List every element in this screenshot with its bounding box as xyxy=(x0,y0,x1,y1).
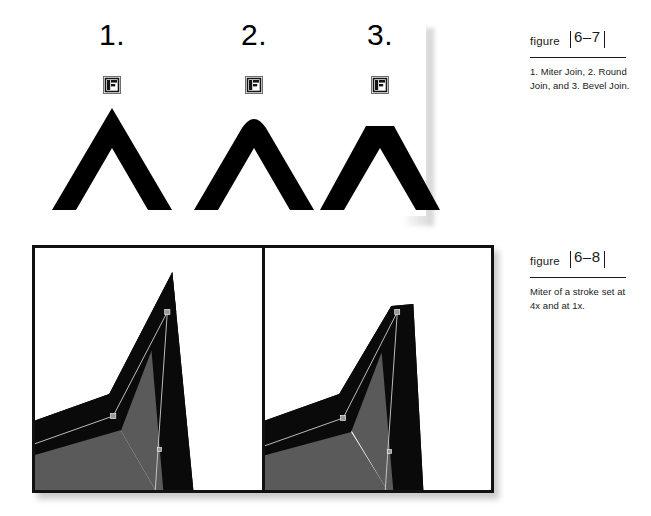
join-number-1: 1. xyxy=(48,18,176,52)
caption-6-8-rule xyxy=(530,277,626,278)
join-shape-bevel xyxy=(316,106,444,210)
stroke-join-swatch-icon xyxy=(103,76,121,94)
caption-6-8-body: Miter of a stroke set at 4x and at 1x. xyxy=(530,285,634,312)
caption-6-7-heading: figure 6–7 xyxy=(530,28,634,49)
miter-panel-4x xyxy=(35,248,265,490)
caption-figure-6-8: figure 6–8 Miter of a stroke set at 4x a… xyxy=(530,248,634,312)
caption-bar-right-icon xyxy=(604,31,605,48)
miter-panel-1x xyxy=(265,248,492,490)
caption-bar-left-icon xyxy=(570,251,571,268)
miter-figure xyxy=(32,245,494,493)
stroke-join-swatch-icon xyxy=(245,76,263,94)
caption-6-8-number: 6–8 xyxy=(574,249,601,265)
caption-6-7-body: 1. Miter Join, 2. Round Join, and 3. Bev… xyxy=(530,65,634,92)
joins-figure-plate: 1. 2. xyxy=(22,18,426,216)
caption-6-8-word: figure xyxy=(530,253,560,269)
caption-6-7-word: figure xyxy=(530,33,560,49)
caption-bar-right-icon xyxy=(604,251,605,268)
join-shape-miter xyxy=(48,106,176,210)
caption-6-7-number-group: 6–7 xyxy=(567,28,608,45)
caption-6-7-rule xyxy=(530,57,626,58)
join-number-3: 3. xyxy=(316,18,444,52)
joins-figure: 1. 2. xyxy=(22,18,432,222)
join-column-miter: 1. xyxy=(48,18,176,216)
caption-figure-6-7: figure 6–7 1. Miter Join, 2. Round Join,… xyxy=(530,28,634,92)
stroke-join-swatch-icon xyxy=(371,76,389,94)
caption-6-8-heading: figure 6–8 xyxy=(530,248,634,269)
join-column-round: 2. xyxy=(190,18,318,216)
caption-6-7-number: 6–7 xyxy=(574,29,601,45)
caption-6-8-number-group: 6–8 xyxy=(567,248,608,265)
caption-bar-left-icon xyxy=(570,31,571,48)
join-number-2: 2. xyxy=(190,18,318,52)
miter-figure-frame xyxy=(32,245,494,493)
join-shape-round xyxy=(190,106,318,210)
join-column-bevel: 3. xyxy=(316,18,444,216)
